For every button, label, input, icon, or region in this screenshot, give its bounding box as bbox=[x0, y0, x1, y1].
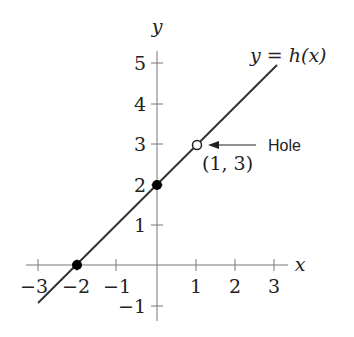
y-axis-label: y bbox=[151, 15, 163, 37]
point-y-intercept bbox=[152, 180, 162, 190]
x-tick-labels: −3 −2 −1 1 2 3 bbox=[20, 275, 280, 297]
y-tick-label: 5 bbox=[134, 52, 146, 74]
point-x-intercept bbox=[72, 260, 82, 270]
hole-label: Hole bbox=[268, 137, 301, 154]
hole-point bbox=[193, 141, 202, 150]
y-tick-label: 4 bbox=[134, 93, 146, 115]
x-tick-label: −2 bbox=[62, 275, 90, 297]
function-graph: −3 −2 −1 1 2 3 5 4 3 2 1 −1 y x y = h(x)… bbox=[0, 0, 354, 337]
y-tick-label: −1 bbox=[118, 295, 146, 317]
x-tick-label: 1 bbox=[190, 275, 202, 297]
x-tick-label: −3 bbox=[20, 275, 48, 297]
x-axis-label: x bbox=[295, 253, 306, 275]
hole-arrow bbox=[208, 141, 256, 149]
y-tick-label: 3 bbox=[134, 133, 146, 155]
x-tick-label: 3 bbox=[268, 275, 280, 297]
y-tick-label: 1 bbox=[134, 214, 146, 236]
function-label: y = h(x) bbox=[249, 44, 327, 66]
x-tick-label: −1 bbox=[103, 275, 131, 297]
hole-coordinate-label: (1, 3) bbox=[202, 152, 253, 174]
y-tick-label: 2 bbox=[134, 174, 146, 196]
x-tick-label: 2 bbox=[229, 275, 241, 297]
